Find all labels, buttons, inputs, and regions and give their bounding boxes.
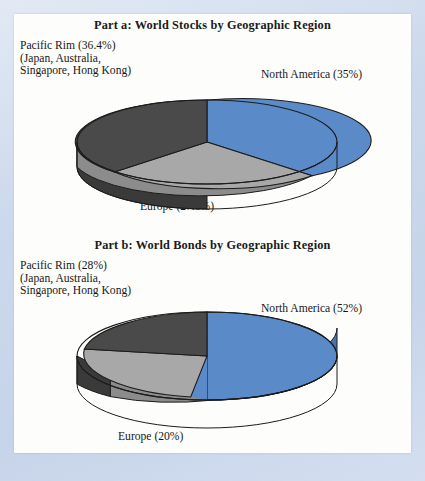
chart-title-part-b: Part b: World Bonds by Geographic Region xyxy=(14,238,411,253)
pie-b-top-outline xyxy=(77,312,337,400)
pie-b-rim-outline xyxy=(77,356,337,400)
pie-a-side-pacific xyxy=(77,142,207,209)
pie-a-side-north-america xyxy=(331,117,338,154)
pie-a-side-europe xyxy=(77,129,331,196)
slice-label-europe-a: Europe (27.6%) xyxy=(140,201,214,214)
slice-label-north-america-b: North America (52%) xyxy=(261,303,362,316)
pie-b-slice-north-america xyxy=(207,312,337,400)
chart-panel-part-a: Part a: World Stocks by Geographic Regio… xyxy=(14,14,411,233)
pie-a-geometry xyxy=(75,99,371,209)
chart-title-part-a: Part a: World Stocks by Geographic Regio… xyxy=(14,18,411,33)
pie-a-rim-outline xyxy=(77,142,337,184)
slice-label-pacific-rim-a: Pacific Rim (36.4%) (Japan, Australia, S… xyxy=(20,40,131,78)
pie-b-slice-europe xyxy=(84,349,207,397)
pie-a-top-outline xyxy=(77,100,337,184)
pie-a-slice-north-america xyxy=(207,99,371,176)
pie-b-side-pacific xyxy=(77,356,110,397)
pie-a-slice-europe xyxy=(114,142,312,189)
pie-b-side-europe xyxy=(110,369,214,403)
pie-b-slice-pacific-rim xyxy=(84,312,207,356)
chart-panel-part-b: Part b: World Bonds by Geographic Region… xyxy=(14,234,411,453)
slice-label-europe-b: Europe (20%) xyxy=(118,431,183,444)
figure-paper: Part a: World Stocks by Geographic Regio… xyxy=(14,14,411,453)
pie-b-base-outline xyxy=(77,384,337,428)
slice-label-pacific-rim-b: Pacific Rim (28%) (Japan, Australia, Sin… xyxy=(20,260,131,298)
pie-b-side-north-america xyxy=(214,328,337,400)
slice-label-north-america-a: North America (35%) xyxy=(261,69,362,82)
pie-b-slice-north-america-tail xyxy=(191,356,207,400)
pie-b-geometry xyxy=(77,312,337,428)
pie-a-slice-pacific-rim xyxy=(75,100,207,172)
